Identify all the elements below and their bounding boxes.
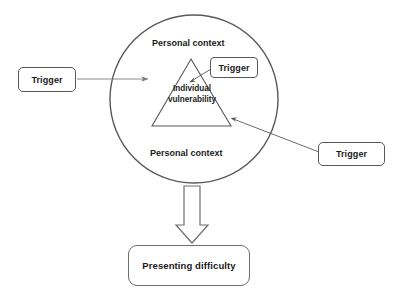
- trigger-box-left[interactable]: Trigger: [18, 67, 76, 92]
- individual-vulnerability-label: Individual vulnerability: [157, 84, 227, 105]
- trigger-box-top[interactable]: Trigger: [210, 57, 258, 78]
- personal-context-bottom-label: Personal context: [150, 148, 223, 158]
- presenting-difficulty-label: Presenting difficulty: [142, 260, 235, 271]
- block-arrow-down-icon: [176, 186, 208, 243]
- individual-vulnerability-label-line1: Individual: [157, 84, 227, 95]
- arrow-top-to-triangle-icon: [189, 69, 211, 83]
- individual-vulnerability-label-line2: vulnerability: [157, 95, 227, 106]
- presenting-difficulty-box[interactable]: Presenting difficulty: [128, 245, 250, 286]
- diagram-canvas: Personal context Personal context Indivi…: [0, 0, 395, 296]
- trigger-box-right[interactable]: Trigger: [318, 142, 385, 166]
- trigger-box-top-label: Trigger: [218, 63, 249, 73]
- trigger-box-left-label: Trigger: [31, 75, 62, 85]
- trigger-box-right-label: Trigger: [336, 149, 367, 159]
- personal-context-top-label: Personal context: [152, 38, 225, 48]
